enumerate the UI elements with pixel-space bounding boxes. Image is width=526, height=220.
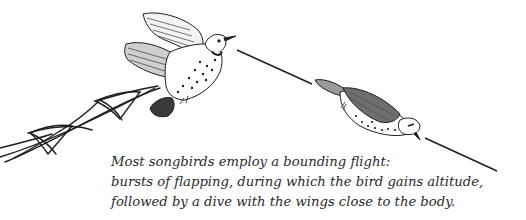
bird-flapping <box>125 13 236 117</box>
caption-line-3: followed by a dive with the wings close … <box>111 192 483 212</box>
illustration-canvas: Most songbirds employ a bounding flight:… <box>0 0 526 220</box>
caption-line-1: Most songbirds employ a bounding flight: <box>111 152 483 172</box>
flight-line-upper <box>237 50 312 84</box>
bird-diving <box>315 80 420 140</box>
caption: Most songbirds employ a bounding flight:… <box>111 152 483 212</box>
caption-line-2: bursts of flapping, during which the bir… <box>111 172 483 192</box>
flight-path-zigzag <box>0 86 160 162</box>
